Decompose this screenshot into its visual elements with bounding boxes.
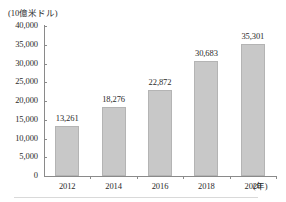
- y-axis-tick-mark: [44, 176, 47, 177]
- x-axis-tick-label: 2016: [134, 181, 186, 192]
- bar: [148, 90, 172, 176]
- x-axis-tick-mark: [90, 176, 91, 179]
- y-axis-tick-label: 40,000: [15, 20, 38, 31]
- bar-value-label: 18,276: [88, 94, 140, 105]
- y-axis-tick-label: 25,000: [15, 76, 38, 87]
- x-axis-unit-label: (年): [253, 181, 268, 192]
- y-axis-tick-label: 5,000: [19, 151, 38, 162]
- y-axis-tick-label: 30,000: [15, 58, 38, 69]
- bar-value-label: 22,872: [134, 77, 186, 88]
- y-axis-tick-label: 35,000: [15, 39, 38, 50]
- x-axis-tick-mark: [137, 176, 138, 179]
- bar: [194, 61, 218, 176]
- bar-value-label: 13,261: [41, 113, 93, 124]
- y-axis-tick-label: 15,000: [15, 114, 38, 125]
- plot-area: [44, 26, 276, 176]
- bar-value-label: 30,683: [180, 48, 232, 59]
- y-axis-unit-label: (10億米ドル): [8, 8, 57, 18]
- bar: [241, 44, 265, 176]
- figure-bottom-rule: [14, 197, 258, 198]
- x-axis-line: [44, 176, 276, 177]
- x-axis-tick-label: 2012: [41, 181, 93, 192]
- bar: [102, 107, 126, 176]
- y-axis-tick-label: 0: [34, 170, 38, 181]
- x-axis-tick-mark: [230, 176, 231, 179]
- bar: [55, 126, 79, 176]
- x-axis-tick-label: 2014: [88, 181, 140, 192]
- y-axis-tick-label: 10,000: [15, 133, 38, 144]
- bar-chart-figure: (10億米ドル) 05,00010,00015,00020,00025,0003…: [0, 0, 286, 202]
- y-axis-tick-label: 20,000: [15, 95, 38, 106]
- x-axis-tick-mark: [276, 176, 277, 179]
- x-axis-tick-label: 2018: [180, 181, 232, 192]
- x-axis-tick-mark: [183, 176, 184, 179]
- bar-value-label: 35,301: [227, 31, 279, 42]
